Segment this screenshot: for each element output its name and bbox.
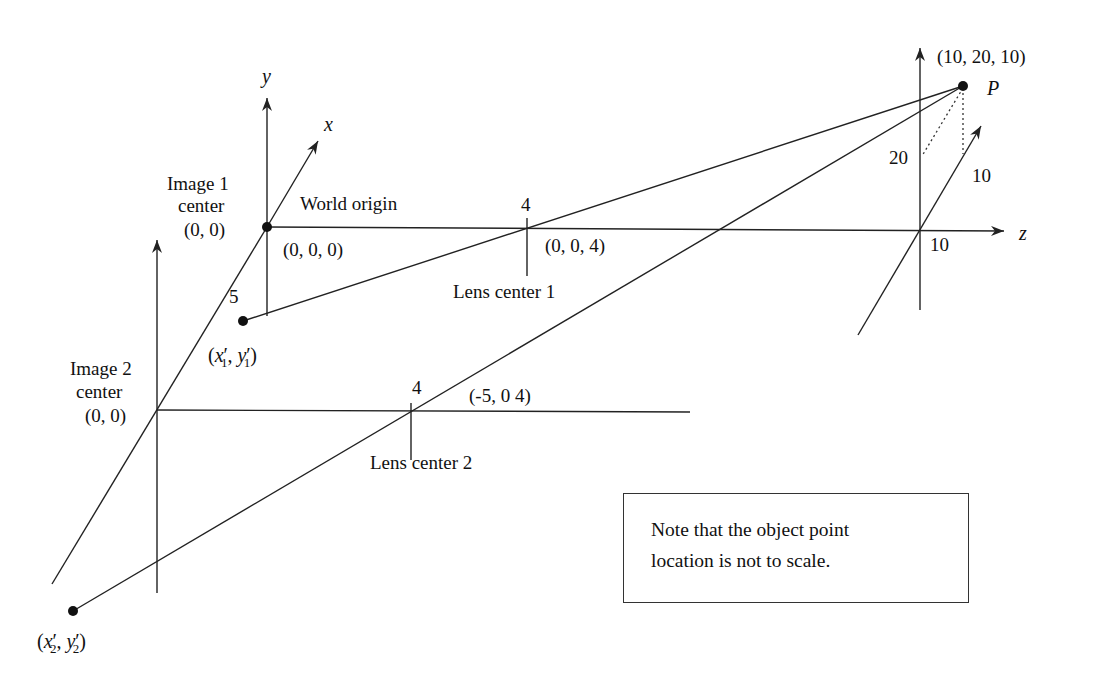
object-point-coords: (10, 20, 10) (937, 46, 1026, 68)
image2-center-coords: (0, 0) (85, 405, 126, 427)
y-axis-label: y (260, 65, 271, 88)
image-point-2-label: (x′2, y′2) (37, 630, 86, 656)
p-x-value-label: 10 (972, 165, 991, 186)
object-point-p (958, 81, 968, 91)
image1-center-label-line2: center (178, 195, 225, 216)
note-line-2: location is not to scale. (651, 545, 968, 576)
p-z-value-label: 10 (930, 234, 949, 255)
z-axis-label: z (1018, 222, 1027, 244)
lens2-coords: (-5, 0 4) (469, 385, 531, 407)
image1-center-label-line1: Image 1 (167, 173, 229, 194)
p-y-value-label: 20 (889, 147, 908, 168)
lens1-label: Lens center 1 (453, 281, 555, 302)
world-origin-label: World origin (300, 193, 398, 214)
image-point-2 (68, 606, 78, 616)
lens2-tick-label: 4 (412, 377, 422, 398)
x-axis-label: x (323, 113, 333, 135)
lens1-coords: (0, 0, 4) (545, 235, 605, 257)
lens2-label: Lens center 2 (370, 452, 472, 473)
image-point-1 (238, 316, 248, 326)
z-axis (267, 227, 1004, 231)
image2-center-label-line1: Image 2 (70, 358, 132, 379)
scale-note-box: Note that the object point location is n… (623, 493, 969, 603)
image-point-1-label: (x′1, y′1) (208, 344, 257, 370)
object-point-name: P (986, 77, 999, 99)
world-origin-point (262, 222, 272, 232)
world-origin-coords: (0, 0, 0) (283, 239, 343, 261)
image2-center-label-line2: center (76, 381, 123, 402)
x-axis (267, 141, 318, 227)
image2-optical-axis (157, 410, 690, 412)
note-line-1: Note that the object point (651, 514, 968, 545)
image1-center-coords: (0, 0) (184, 219, 225, 241)
lens1-tick-label: 4 (521, 194, 531, 215)
baseline-length-label: 5 (229, 286, 239, 307)
